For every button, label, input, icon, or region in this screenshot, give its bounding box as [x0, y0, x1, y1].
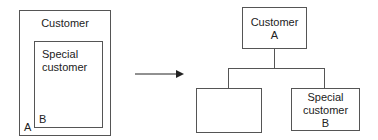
connector-left-drop [228, 68, 229, 88]
connector-horizontal [228, 68, 325, 69]
child-special-label-line1: Special [292, 91, 359, 104]
child-special-customer-box: Special customer B [291, 88, 360, 131]
child-empty-box [196, 88, 262, 133]
connector-right-drop [324, 68, 325, 88]
parent-customer-label-line1: Customer [243, 16, 306, 29]
parent-customer-label-line2: A [243, 29, 306, 42]
child-special-label-line3: B [292, 117, 359, 130]
connector-parent-stem [274, 49, 275, 68]
parent-customer-box: Customer A [242, 7, 307, 49]
child-special-label-line2: customer [292, 104, 359, 117]
